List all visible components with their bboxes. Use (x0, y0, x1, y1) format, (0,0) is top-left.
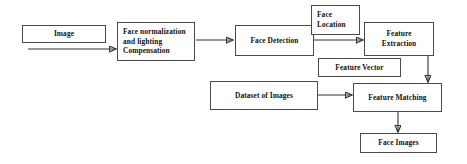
node-dataset_of_images: Dataset of Images (210, 81, 318, 110)
node-label-face_location: Face Location (317, 10, 346, 30)
node-feature_extraction: Feature Extraction (364, 22, 434, 56)
node-label-dataset_of_images: Dataset of Images (235, 91, 293, 101)
node-face_normalization: Face normalization and lighting Compensa… (117, 22, 195, 61)
node-face_detection: Face Detection (235, 25, 314, 56)
node-label-face_normalization: Face normalization and lighting Compensa… (123, 27, 186, 57)
node-label-feature_extraction: Feature Extraction (382, 29, 417, 49)
node-label-image: Image (54, 29, 74, 39)
node-face_location: Face Location (311, 5, 360, 35)
flowchart-diagram: ImageFace normalization and lighting Com… (0, 0, 467, 164)
node-image: Image (22, 25, 106, 43)
node-label-feature_vector: Feature Vector (335, 63, 383, 73)
node-feature_matching: Feature Matching (353, 83, 442, 112)
node-feature_vector: Feature Vector (318, 58, 401, 77)
node-face_images: Face Images (360, 133, 437, 153)
node-label-face_detection: Face Detection (251, 36, 299, 46)
node-label-feature_matching: Feature Matching (368, 93, 426, 103)
node-label-face_images: Face Images (378, 138, 418, 148)
